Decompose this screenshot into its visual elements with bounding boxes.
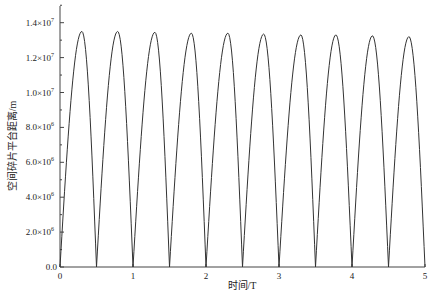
y-tick-label: 1.0×107 [26,87,54,98]
distance-series-line [60,31,425,267]
y-tick-label: 8.0×106 [26,121,54,132]
y-tick-label: 0.0 [46,262,58,272]
x-tick-label: 0 [58,271,63,281]
y-tick-label: 1.4×107 [26,17,54,28]
y-tick-label: 2.0×106 [26,226,54,237]
x-tick-label: 5 [423,271,428,281]
chart: 0.02.0×1064.0×1066.0×1068.0×1061.0×1071.… [0,0,433,295]
y-axis: 0.02.0×1064.0×1066.0×1068.0×1061.0×1071.… [26,5,64,272]
x-axis-label: 时间/T [228,279,257,291]
y-tick-label: 6.0×106 [26,156,54,167]
y-tick-label: 1.2×107 [26,52,54,63]
y-axis-label: 空间碎片平台距离/m [6,101,18,192]
x-tick-label: 4 [350,271,355,281]
x-tick-label: 2 [204,271,209,281]
x-tick-label: 1 [131,271,136,281]
x-tick-label: 3 [277,271,282,281]
y-tick-label: 4.0×106 [26,191,54,202]
